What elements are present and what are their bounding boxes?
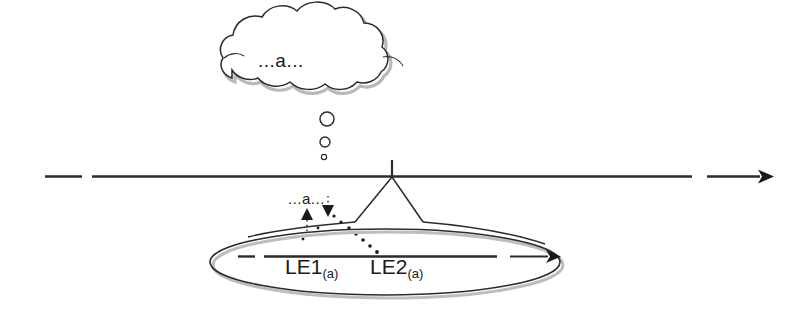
le1-label: LE1(a): [285, 255, 338, 281]
le2-label: LE2(a): [370, 255, 423, 281]
trail-dot: [375, 250, 379, 254]
thought-bubble-trail: [320, 112, 334, 160]
le1-label-subscript: (a): [322, 266, 338, 281]
thought-bubble-small: [321, 154, 326, 159]
diagram-canvas: ...a... ...a... LE1(a) LE2(a): [0, 0, 799, 317]
trail-dot: [302, 238, 305, 241]
thought-cloud: [220, 2, 403, 93]
le1-label-main: LE1: [285, 255, 322, 278]
tent-right-leg: [392, 177, 423, 222]
trail-dot: [332, 214, 335, 217]
timeline-arrowhead: [758, 170, 774, 184]
cloud-text-label: ...a...: [258, 50, 304, 72]
le2-label-subscript: (a): [407, 266, 423, 281]
trail-dot: [339, 220, 342, 223]
inner-text-label: ...a...: [288, 190, 325, 207]
thought-bubble-large: [320, 112, 334, 126]
tent-left-leg: [355, 177, 392, 222]
cloud-body: [220, 2, 387, 89]
le2-label-main: LE2: [370, 255, 407, 278]
main-timeline-arrow: [45, 170, 774, 184]
trail-dot: [361, 238, 365, 242]
trail-dot: [368, 244, 372, 248]
trail-dot: [317, 227, 320, 230]
up-triangle-marker: [301, 208, 313, 220]
thought-bubble-medium: [320, 137, 330, 147]
